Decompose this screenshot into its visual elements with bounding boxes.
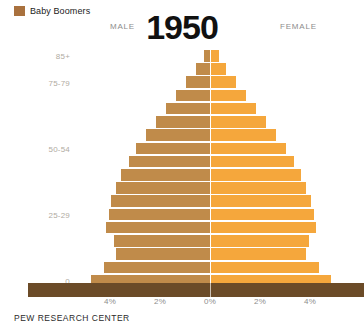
axis-baseline-strip [28,283,364,297]
bar-male-40-44 [121,169,210,181]
bar-male-30-34 [111,195,210,207]
pyramid-plot-area: 85+75-7950-5425-290 [0,50,364,288]
bar-male-20-24 [106,222,210,234]
bar-female-50-54 [211,143,286,155]
pyramid-row [0,156,364,168]
bar-female-25-29 [211,209,314,221]
x-axis-tick-1: 2% [154,297,166,306]
bar-male-35-39 [116,182,210,194]
bar-male-80-84 [196,63,210,75]
bar-male-55-59 [146,129,210,141]
pyramid-row [0,195,364,207]
pyramid-row [0,103,364,115]
pyramid-row [0,209,364,221]
pyramid-row [0,248,364,260]
center-axis-line [210,50,211,288]
bar-female-60-64 [211,116,266,128]
pyramid-bar-rows [0,50,364,288]
bar-female-85+ [211,50,219,62]
bar-female-15-19 [211,235,309,247]
bar-female-5-9 [211,262,319,274]
bar-male-75-79 [186,76,210,88]
bar-male-65-69 [166,103,210,115]
female-side-label: FEMALE [280,22,317,31]
pyramid-row [0,182,364,194]
bar-female-10-14 [211,248,306,260]
x-axis-tick-2: 0% [204,297,216,306]
bar-female-55-59 [211,129,276,141]
bar-female-45-49 [211,156,294,168]
bar-male-10-14 [116,248,210,260]
x-axis-tick-3: 2% [254,297,266,306]
pyramid-row [0,50,364,62]
bar-female-35-39 [211,182,306,194]
bar-male-5-9 [104,262,210,274]
bar-male-15-19 [114,235,210,247]
x-axis-tick-0: 4% [104,297,116,306]
bar-male-45-49 [129,156,210,168]
pyramid-row [0,222,364,234]
bar-female-65-69 [211,103,256,115]
pyramid-row [0,90,364,102]
pyramid-row [0,262,364,274]
bar-female-80-84 [211,63,226,75]
bar-female-70-74 [211,90,246,102]
bar-female-30-34 [211,195,311,207]
bar-male-25-29 [109,209,210,221]
bar-male-50-54 [136,143,210,155]
bar-female-75-79 [211,76,236,88]
source-attribution: PEW RESEARCH CENTER [14,313,130,323]
pyramid-row [0,129,364,141]
pyramid-row [0,116,364,128]
baseline-center-tick [210,283,211,297]
bar-female-20-24 [211,222,316,234]
bar-male-60-64 [156,116,210,128]
bar-female-40-44 [211,169,301,181]
bar-male-70-74 [176,90,210,102]
pyramid-row [0,143,364,155]
pyramid-row [0,76,364,88]
pyramid-row [0,63,364,75]
chart-header: MALE 1950 FEMALE [0,14,364,44]
pyramid-row [0,235,364,247]
x-axis-tick-4: 4% [304,297,316,306]
pyramid-row [0,169,364,181]
x-axis-labels: 4%2%0%2%4% [0,297,364,309]
